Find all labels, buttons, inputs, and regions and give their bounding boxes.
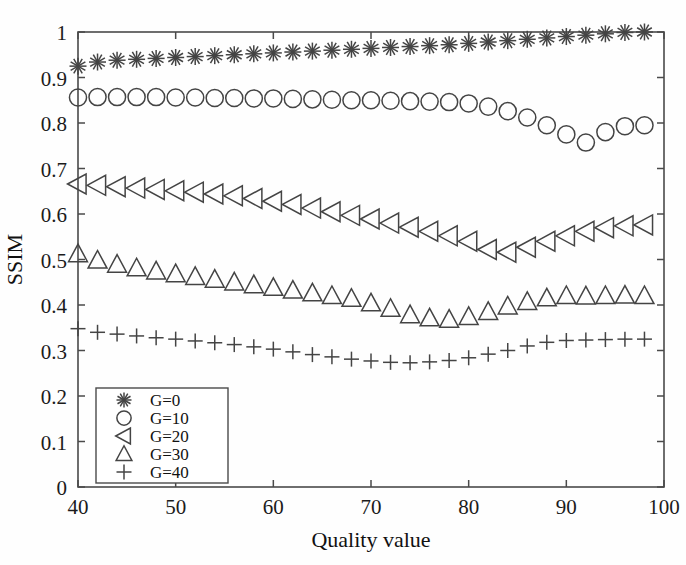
data-point-g-20-58	[243, 189, 262, 209]
data-point-g-40-98	[637, 332, 652, 347]
data-point-g-10-52	[187, 89, 204, 106]
data-point-g-20-98	[634, 215, 653, 235]
y-tick-label-0.5: 0.5	[41, 249, 67, 273]
data-point-g-20-74	[400, 217, 419, 237]
data-point-g-40-64	[305, 347, 320, 362]
data-point-g-0-92	[577, 27, 594, 44]
data-point-g-0-90	[558, 28, 575, 45]
data-point-g-20-70	[361, 209, 380, 229]
legend[interactable]: G=0G=10G=20G=30G=40	[96, 388, 228, 483]
series-g-40	[71, 321, 652, 370]
x-tick-label-50: 50	[165, 495, 186, 519]
data-point-g-40-58	[246, 339, 261, 354]
data-point-g-30-96	[615, 286, 634, 304]
data-point-g-0-64	[304, 43, 321, 60]
data-point-g-30-82	[479, 302, 498, 320]
legend-label-g-40: G=40	[150, 463, 189, 482]
data-point-g-0-54	[206, 47, 223, 64]
y-tick-label-0.2: 0.2	[41, 385, 67, 409]
data-point-g-30-94	[596, 286, 615, 304]
data-point-g-0-62	[284, 44, 301, 61]
data-series-layer	[68, 24, 654, 371]
data-point-g-0-94	[597, 25, 614, 42]
data-point-g-30-60	[264, 278, 283, 296]
data-point-g-20-96	[614, 216, 633, 236]
data-point-g-30-86	[518, 292, 537, 310]
data-point-g-10-90	[558, 126, 575, 143]
data-point-g-40-48	[149, 330, 164, 345]
data-point-g-30-54	[205, 270, 224, 288]
y-tick-label-1: 1	[57, 21, 68, 45]
data-point-g-30-66	[322, 286, 341, 304]
data-point-g-0-46	[128, 51, 145, 68]
y-tick-label-0.7: 0.7	[41, 158, 67, 182]
data-point-g-0-74	[402, 38, 419, 55]
y-tick-label-0.1: 0.1	[41, 431, 67, 455]
data-point-g-20-64	[302, 198, 321, 218]
data-point-g-20-62	[282, 194, 301, 214]
x-tick-label-60: 60	[263, 495, 284, 519]
data-point-g-0-42	[89, 54, 106, 71]
data-point-g-30-52	[186, 267, 205, 285]
data-point-g-40-78	[442, 353, 457, 368]
data-point-g-30-62	[283, 281, 302, 299]
data-point-g-40-70	[364, 353, 379, 368]
y-tick-label-0.8: 0.8	[41, 112, 67, 136]
data-point-g-0-50	[167, 49, 184, 66]
data-point-g-10-74	[402, 93, 419, 110]
data-point-g-40-96	[617, 332, 632, 347]
data-point-g-20-66	[321, 202, 340, 222]
data-point-g-40-52	[188, 333, 203, 348]
data-point-g-30-98	[635, 286, 654, 304]
x-tick-label-100: 100	[648, 495, 680, 519]
data-point-g-0-76	[421, 37, 438, 54]
data-point-g-0-70	[363, 40, 380, 57]
data-point-g-20-44	[107, 177, 126, 197]
data-point-g-20-56	[224, 186, 243, 206]
data-point-g-30-92	[576, 286, 595, 304]
data-point-g-30-80	[459, 307, 478, 325]
data-point-g-10-80	[460, 95, 477, 112]
data-point-g-30-58	[244, 275, 263, 293]
data-point-g-30-88	[537, 288, 556, 306]
data-point-g-20-46	[126, 178, 145, 198]
data-point-g-0-96	[616, 24, 633, 41]
data-point-g-40-62	[285, 344, 300, 359]
data-point-g-0-44	[109, 52, 126, 69]
data-point-g-20-42	[87, 175, 106, 195]
ssim-quality-scatter-plot: 40506070809010000.10.20.30.40.50.60.70.8…	[0, 0, 686, 565]
data-point-g-0-72	[382, 39, 399, 56]
data-point-g-20-60	[263, 191, 282, 211]
data-point-g-40-94	[598, 332, 613, 347]
data-point-g-10-62	[284, 90, 301, 107]
data-point-g-20-48	[146, 179, 165, 199]
data-point-g-0-48	[148, 50, 165, 67]
data-point-g-40-80	[461, 350, 476, 365]
x-axis-title: Quality value	[311, 527, 430, 552]
data-point-g-40-90	[559, 333, 574, 348]
data-point-g-10-42	[89, 89, 106, 106]
data-point-g-10-84	[499, 103, 516, 120]
data-point-g-10-46	[128, 89, 145, 106]
legend-label-g-0: G=0	[150, 391, 180, 410]
data-point-g-10-72	[382, 92, 399, 109]
data-point-g-40-84	[500, 343, 515, 358]
legend-label-g-30: G=30	[150, 445, 189, 464]
data-point-g-10-44	[109, 89, 126, 106]
data-point-g-40-76	[422, 354, 437, 369]
data-point-g-30-78	[440, 310, 459, 328]
data-point-g-40-86	[520, 338, 535, 353]
data-point-g-40-60	[266, 342, 281, 357]
data-point-g-10-70	[362, 92, 379, 109]
y-tick-label-0.3: 0.3	[41, 340, 67, 364]
series-g-30	[69, 244, 654, 327]
legend-label-g-10: G=10	[150, 409, 189, 428]
data-point-g-40-88	[539, 335, 554, 350]
data-point-g-10-94	[597, 124, 614, 141]
x-tick-label-40: 40	[68, 495, 89, 519]
data-point-g-0-66	[323, 42, 340, 59]
data-point-g-10-86	[519, 109, 536, 126]
data-point-g-40-82	[481, 347, 496, 362]
legend-label-g-20: G=20	[150, 427, 189, 446]
data-point-g-10-48	[148, 89, 165, 106]
